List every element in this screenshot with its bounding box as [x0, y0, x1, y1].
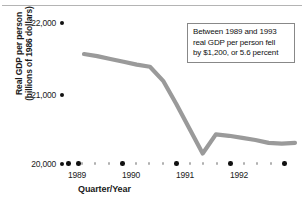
x-tick-major	[228, 161, 233, 166]
x-tick-label-1992: 1992	[219, 170, 259, 180]
x-tick-major	[282, 161, 287, 166]
annotation-line-1: Between 1989 and 1993	[193, 27, 290, 38]
x-tick-label-1990: 1990	[111, 170, 151, 180]
x-tick-minor	[135, 162, 137, 164]
x-tick-major	[120, 161, 125, 166]
top-divider	[2, 5, 302, 6]
x-tick-minor	[162, 162, 164, 164]
x-axis-ticks	[66, 160, 302, 169]
y-tick-label-22000: 22,000	[31, 18, 56, 28]
x-tick-minor	[256, 162, 258, 164]
y-tick-20000: 20,000	[12, 159, 64, 169]
x-tick-label-1989: 1989	[57, 170, 97, 180]
x-tick-minor	[108, 162, 110, 164]
chart-figure: Real GDP per person (billions of 1986 do…	[0, 0, 304, 201]
x-tick-minor	[94, 162, 96, 164]
y-tick-label-20000: 20,000	[31, 159, 56, 169]
x-tick-minor	[216, 162, 218, 164]
x-tick-minor	[189, 162, 191, 164]
x-tick-minor	[202, 162, 204, 164]
annotation-callout: Between 1989 and 1993 real GDP per perso…	[187, 23, 295, 63]
annotation-line-3: by $1,200, or 5.6 percent	[193, 48, 290, 59]
x-tick-major	[66, 161, 71, 166]
x-tick-major	[76, 161, 81, 166]
y-tick-marker-icon	[60, 93, 64, 97]
annotation-line-2: real GDP per person fell	[193, 38, 290, 49]
x-tick-label-1991: 1991	[165, 170, 205, 180]
y-tick-marker-icon	[60, 21, 64, 25]
x-tick-major	[174, 161, 179, 166]
y-tick-marker-icon	[60, 162, 64, 166]
x-tick-minor	[270, 162, 272, 164]
x-tick-minor	[81, 162, 83, 164]
x-tick-minor	[243, 162, 245, 164]
y-tick-label-21000: 21,000	[31, 90, 56, 100]
y-tick-21000: 21,000	[12, 90, 64, 100]
y-tick-22000: 22,000	[12, 18, 64, 28]
x-tick-minor	[148, 162, 150, 164]
x-axis-title: Quarter/Year	[78, 184, 131, 194]
